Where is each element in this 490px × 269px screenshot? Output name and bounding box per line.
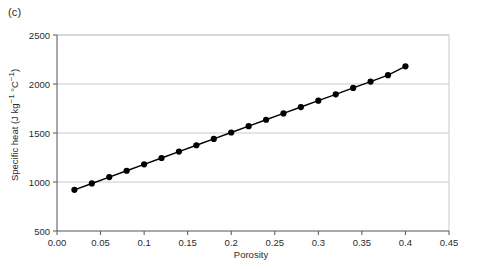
- data-point: [298, 104, 304, 110]
- y-tick-label-4: 2500: [29, 30, 50, 41]
- x-tick-label-7: 0.35: [353, 237, 372, 248]
- data-point: [280, 110, 286, 116]
- data-point: [368, 78, 374, 84]
- data-point: [89, 180, 95, 186]
- x-tick-label-1: 0.05: [91, 237, 110, 248]
- figure-panel-c: (c) Specific heat (J kg−1 °C−1) Porosity…: [0, 0, 490, 269]
- data-point: [246, 123, 252, 129]
- scatter-plot-canvas: 50010001500200025000.000.050.10.150.20.2…: [0, 0, 490, 269]
- data-point: [176, 149, 182, 155]
- data-point: [333, 91, 339, 97]
- x-tick-label-6: 0.3: [312, 237, 325, 248]
- data-point: [141, 161, 147, 167]
- data-point: [263, 117, 269, 123]
- data-point: [106, 174, 112, 180]
- x-tick-label-2: 0.1: [138, 237, 151, 248]
- x-tick-label-9: 0.45: [440, 237, 459, 248]
- y-tick-label-3: 2000: [29, 79, 50, 90]
- data-point: [385, 72, 391, 78]
- x-tick-label-3: 0.15: [178, 237, 197, 248]
- data-point: [124, 168, 130, 174]
- data-point: [350, 85, 356, 91]
- data-point: [402, 63, 408, 69]
- data-point: [158, 155, 164, 161]
- data-point: [211, 136, 217, 142]
- data-point: [71, 187, 77, 193]
- y-tick-label-1: 1000: [29, 177, 50, 188]
- data-point: [228, 129, 234, 135]
- y-tick-label-2: 1500: [29, 128, 50, 139]
- x-tick-label-8: 0.4: [399, 237, 412, 248]
- y-tick-label-0: 500: [34, 226, 50, 237]
- x-tick-label-4: 0.2: [225, 237, 238, 248]
- x-tick-label-0: 0.00: [48, 237, 67, 248]
- data-point: [193, 142, 199, 148]
- x-tick-label-5: 0.25: [266, 237, 285, 248]
- data-point: [315, 98, 321, 104]
